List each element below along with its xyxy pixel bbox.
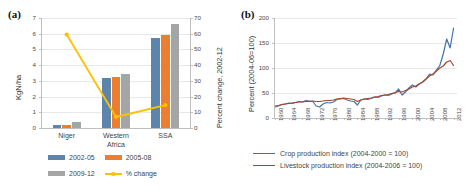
y2-tick-label: 70 <box>194 15 216 21</box>
legend-row: 2002-052005-08 <box>48 154 161 161</box>
y2-tick-label: 60 <box>194 31 216 37</box>
y-tick-label: 6 <box>14 31 36 37</box>
y-tick-mark <box>39 65 41 66</box>
x-tick-label: 1960 <box>278 108 284 121</box>
legend-label: 2002-05 <box>69 154 95 161</box>
panel-b-plot-area <box>275 18 457 118</box>
y-tick-mark <box>272 43 274 44</box>
y-tick-label: 7 <box>14 15 36 21</box>
panel-b-y-axis-label: Percent (2004-06=100) <box>247 36 256 112</box>
panel-b: (b) Percent (2004-06=100) 050100150200 1… <box>235 0 469 193</box>
y2-tick-mark <box>191 49 193 50</box>
y2-tick-mark <box>191 34 193 35</box>
x-tick-label: 2000 <box>415 108 421 121</box>
y-tick-label: 4 <box>14 62 36 68</box>
x-tick-mark <box>357 118 358 120</box>
figure-container: (a) KgN/ha Percent change, 2002-12 01234… <box>0 0 469 193</box>
panel-b-series-lines <box>275 18 457 118</box>
x-tick-mark <box>412 118 413 120</box>
x-tick-label: 1984 <box>360 108 366 121</box>
x-tick-mark <box>330 118 331 120</box>
panel-a-y2-axis-label: Percent change, 2002-12 <box>215 47 224 128</box>
y-tick-label: 100 <box>247 65 269 71</box>
legend-line-swatch <box>105 171 122 176</box>
legend-label: % change <box>126 170 157 177</box>
category-label-line: SSA <box>135 132 195 141</box>
x-tick-label: 1976 <box>332 108 338 121</box>
y-tick-label: 5 <box>14 46 36 52</box>
x-tick-mark <box>371 118 372 120</box>
legend-label: 2005-08 <box>126 154 152 161</box>
y-tick-mark <box>39 34 41 35</box>
y-tick-mark <box>39 49 41 50</box>
legend-label-crop: Crop production index (2004-2000 = 100) <box>280 150 408 157</box>
legend-color-swatch <box>48 155 65 160</box>
y-tick-label: 150 <box>247 40 269 46</box>
y-tick-mark <box>272 93 274 94</box>
legend-item-2002-05: 2002-05 <box>48 154 95 161</box>
x-tick-mark <box>289 118 290 120</box>
y2-tick-label: 30 <box>194 78 216 84</box>
legend-color-swatch <box>48 171 65 176</box>
x-tick-mark <box>344 118 345 120</box>
x-tick-label: 1996 <box>401 108 407 121</box>
panel-b-left-axis <box>274 18 275 119</box>
legend-row: 2009-12% change <box>48 170 167 177</box>
legend-label: 2009-12 <box>69 170 95 177</box>
y-tick-label: 1 <box>14 109 36 115</box>
y2-tick-mark <box>191 81 193 82</box>
x-tick-label: 1968 <box>305 108 311 121</box>
x-tick-mark <box>385 118 386 120</box>
y2-tick-mark <box>191 18 193 19</box>
panel-b-legend: Crop production index (2004-2000 = 100) … <box>253 150 422 174</box>
x-tick-label: 1980 <box>346 108 352 121</box>
x-tick-label: 1972 <box>319 108 325 121</box>
legend-item-livestock: Livestock production index (2004-2006 = … <box>253 162 422 169</box>
legend-item-crop: Crop production index (2004-2000 = 100) <box>253 150 422 157</box>
y-tick-label: 0 <box>247 115 269 121</box>
y-tick-label: 0 <box>14 125 36 131</box>
x-tick-mark <box>399 118 400 120</box>
panel-a: (a) KgN/ha Percent change, 2002-12 01234… <box>0 0 235 193</box>
y-tick-mark <box>272 118 274 119</box>
legend-item-2005-08: 2005-08 <box>105 154 152 161</box>
x-tick-mark <box>454 118 455 120</box>
x-tick-label: 1992 <box>387 108 393 121</box>
y-tick-mark <box>272 68 274 69</box>
panel-a-left-axis <box>41 18 42 129</box>
y-tick-mark <box>39 128 41 129</box>
category-label-line: Africa <box>86 141 146 150</box>
livestock-line-swatch <box>253 165 275 167</box>
y-tick-mark <box>272 18 274 19</box>
legend-item--change: % change <box>105 170 157 177</box>
y2-tick-label: 10 <box>194 109 216 115</box>
legend-label-livestock: Livestock production index (2004-2006 = … <box>280 162 422 169</box>
x-tick-label: 1988 <box>374 108 380 121</box>
category-label: SSA <box>135 132 195 141</box>
y2-tick-mark <box>191 112 193 113</box>
y-tick-label: 200 <box>247 15 269 21</box>
y-tick-label: 2 <box>14 94 36 100</box>
y2-tick-label: 50 <box>194 46 216 52</box>
panel-a-x-axis <box>42 128 190 129</box>
x-tick-mark <box>440 118 441 120</box>
y2-tick-label: 40 <box>194 62 216 68</box>
legend-item-2009-12: 2009-12 <box>48 170 95 177</box>
x-tick-mark <box>302 118 303 120</box>
x-tick-label: 2008 <box>442 108 448 121</box>
y2-tick-mark <box>191 128 193 129</box>
y-tick-label: 50 <box>247 90 269 96</box>
y-tick-label: 3 <box>14 78 36 84</box>
x-tick-label: 2004 <box>429 108 435 121</box>
y-tick-mark <box>39 112 41 113</box>
panel-a-plot-area <box>42 18 190 128</box>
y-tick-mark <box>39 18 41 19</box>
x-tick-mark <box>426 118 427 120</box>
y2-tick-mark <box>191 97 193 98</box>
legend-color-swatch <box>105 155 122 160</box>
y-tick-mark <box>39 81 41 82</box>
y-tick-mark <box>39 97 41 98</box>
x-tick-label: 1964 <box>291 108 297 121</box>
y2-tick-label: 0 <box>194 125 216 131</box>
y2-tick-label: 20 <box>194 94 216 100</box>
